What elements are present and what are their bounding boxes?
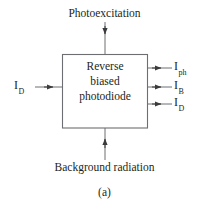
input-current-subscript: D — [19, 87, 25, 96]
input-current-label: ID — [14, 79, 24, 95]
output-current-label-iph: Iph — [174, 60, 186, 76]
block-label-line-3: photodiode — [63, 89, 147, 104]
output-id-symbol: I — [174, 95, 178, 109]
output-iph-subscript: ph — [179, 68, 187, 77]
figure-caption: (a) — [0, 186, 209, 198]
background-radiation-label: Background radiation — [0, 161, 209, 173]
block-label-line-2: biased — [63, 74, 147, 89]
output-id-subscript: D — [179, 104, 185, 113]
output-ib-symbol: I — [174, 78, 178, 92]
photoexcitation-label: Photoexcitation — [0, 7, 209, 19]
input-current-symbol: I — [14, 78, 18, 92]
output-current-label-ib: IB — [174, 79, 183, 95]
photodiode-block-diagram: Photoexcitation Reverse biased photodiod… — [0, 0, 209, 209]
block-label-line-1: Reverse — [63, 59, 147, 74]
output-iph-symbol: I — [174, 59, 178, 73]
output-current-label-id: ID — [174, 96, 184, 112]
block-label: Reverse biased photodiode — [63, 59, 147, 105]
